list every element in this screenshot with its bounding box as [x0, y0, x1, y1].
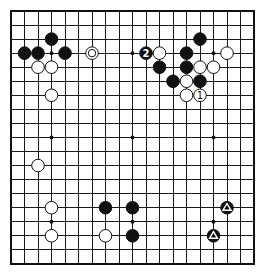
white-stone: [45, 230, 58, 243]
white-stone-disc: [86, 47, 99, 60]
black-stone-disc: [153, 61, 166, 74]
black-stone: [18, 47, 31, 60]
black-stone: [221, 201, 234, 214]
star-point: [131, 135, 135, 139]
black-stone-disc: [99, 201, 112, 214]
star-point: [50, 220, 54, 224]
black-stone: [126, 201, 139, 214]
white-stone-disc: [99, 230, 112, 243]
white-stone: [180, 89, 193, 102]
black-stone: [126, 230, 139, 243]
white-stone: [45, 89, 58, 102]
white-stone-disc: [45, 61, 58, 74]
star-point: [131, 220, 135, 224]
black-stone: [59, 47, 72, 60]
white-stone-disc: [180, 75, 193, 88]
black-stone: [180, 47, 193, 60]
black-stone-disc: [59, 47, 72, 60]
white-stone: [32, 159, 45, 172]
black-stone: [207, 230, 220, 243]
black-stone: [45, 33, 58, 46]
black-stone: 2: [140, 47, 153, 60]
black-stone: [180, 61, 193, 74]
black-stone: [99, 201, 112, 214]
star-point: [131, 51, 135, 55]
white-stone-disc: [207, 61, 220, 74]
black-stone: [153, 61, 166, 74]
black-stone-disc: [194, 75, 207, 88]
go-board: 21: [0, 0, 258, 276]
move-number-label: 2: [143, 48, 150, 59]
white-stone-disc: [45, 230, 58, 243]
black-stone-disc: [126, 201, 139, 214]
black-stone-disc: [194, 33, 207, 46]
white-stone: [180, 75, 193, 88]
white-stone: 1: [194, 89, 207, 102]
white-stone: [207, 61, 220, 74]
white-stone: [45, 201, 58, 214]
black-stone-disc: [18, 47, 31, 60]
white-stone: [194, 61, 207, 74]
black-stone-disc: [180, 61, 193, 74]
star-point: [212, 220, 216, 224]
black-stone: [194, 75, 207, 88]
white-stone-disc: [32, 61, 45, 74]
black-stone-disc: [167, 75, 180, 88]
white-stone: [32, 61, 45, 74]
white-stone-disc: [45, 89, 58, 102]
black-stone: [32, 47, 45, 60]
star-point: [50, 51, 54, 55]
star-point: [50, 135, 54, 139]
white-stone-disc: [221, 47, 234, 60]
white-stone: [221, 47, 234, 60]
black-stone: [167, 75, 180, 88]
star-point: [212, 135, 216, 139]
white-stone: [45, 61, 58, 74]
white-stone-disc: [153, 47, 166, 60]
black-stone: [194, 33, 207, 46]
white-stone-disc: [180, 89, 193, 102]
black-stone-disc: [45, 33, 58, 46]
go-board-diagram: 21: [0, 0, 258, 276]
white-stone: [99, 230, 112, 243]
white-stone-disc: [32, 159, 45, 172]
white-stone-disc: [45, 201, 58, 214]
white-stone: [153, 47, 166, 60]
white-stone-disc: [194, 61, 207, 74]
move-number-label: 1: [197, 90, 203, 101]
black-stone-disc: [126, 230, 139, 243]
white-stone: [86, 47, 99, 60]
star-point: [212, 51, 216, 55]
black-stone-disc: [180, 47, 193, 60]
black-stone-disc: [32, 47, 45, 60]
